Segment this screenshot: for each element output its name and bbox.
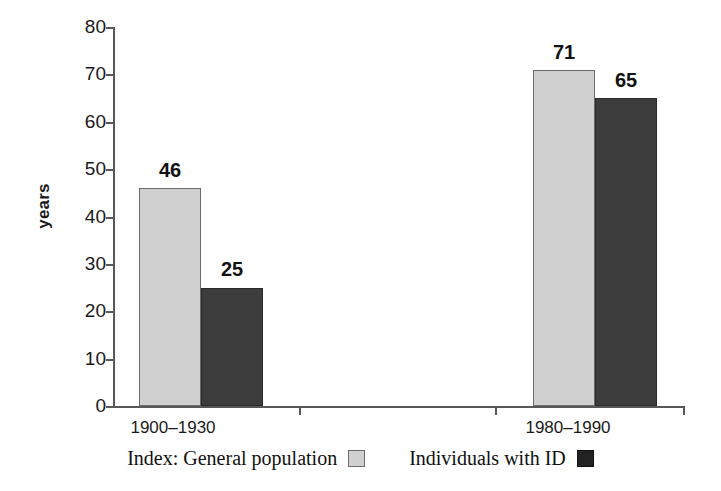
x-axis-line <box>113 406 685 408</box>
y-axis-line <box>113 27 115 406</box>
legend-item-general-population[interactable]: Index: General population <box>127 447 365 470</box>
y-tick-label-60: 60 <box>85 111 106 133</box>
plot-area: 80 70 60 50 40 30 20 10 <box>113 27 685 406</box>
legend-swatch-general-population <box>348 450 365 467</box>
bar-1900-1930-individuals-with-id[interactable] <box>201 288 263 406</box>
y-tick-label-70: 70 <box>85 63 106 85</box>
y-tick-label-10: 10 <box>85 348 106 370</box>
bar-value-1900-1930-general-population: 46 <box>139 159 201 182</box>
x-category-label-1980-1990: 1980–1990 <box>478 418 658 438</box>
y-tick-label-40: 40 <box>85 206 106 228</box>
bar-chart: years 80 70 60 50 40 30 <box>0 0 721 491</box>
y-tick-label-50: 50 <box>85 158 106 180</box>
x-tick-boundary-2 <box>495 406 497 415</box>
y-tick-label-0: 0 <box>95 395 106 417</box>
legend: Index: General population Individuals wi… <box>0 447 721 470</box>
bar-1900-1930-general-population[interactable] <box>139 188 201 406</box>
y-tick-label-30: 30 <box>85 253 106 275</box>
y-tick-label-20: 20 <box>85 300 106 322</box>
y-axis-title: years <box>34 176 54 236</box>
legend-swatch-individuals-with-id <box>577 450 594 467</box>
legend-label-general-population: Index: General population <box>127 447 337 470</box>
bar-value-1980-1990-individuals-with-id: 65 <box>595 69 657 92</box>
bar-value-1980-1990-general-population: 71 <box>533 41 595 64</box>
y-tick-label-80: 80 <box>85 16 106 38</box>
legend-label-individuals-with-id: Individuals with ID <box>409 447 566 470</box>
legend-item-individuals-with-id[interactable]: Individuals with ID <box>409 447 594 470</box>
bar-1980-1990-individuals-with-id[interactable] <box>595 98 657 406</box>
x-category-label-1900-1930: 1900–1930 <box>83 418 263 438</box>
bar-1980-1990-general-population[interactable] <box>533 70 595 406</box>
x-tick-boundary-1 <box>299 406 301 415</box>
bar-value-1900-1930-individuals-with-id: 25 <box>201 258 263 281</box>
x-tick-boundary-3 <box>683 406 685 415</box>
